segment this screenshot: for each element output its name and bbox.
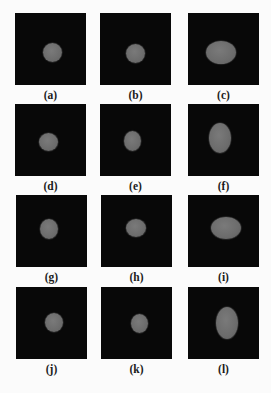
segmented-region — [209, 123, 231, 153]
segmented-region — [45, 313, 63, 332]
image-panel — [15, 104, 86, 176]
segmented-region — [131, 314, 148, 333]
panel-caption: (d) — [15, 179, 86, 193]
panel-caption: (c) — [188, 88, 259, 102]
segmented-region — [206, 41, 236, 64]
panel-caption: (i) — [188, 270, 259, 284]
image-panel — [188, 13, 259, 85]
panel-caption: (f) — [188, 179, 259, 193]
panel-caption: (j) — [16, 362, 87, 376]
image-panel — [188, 104, 259, 176]
figure-grid: (a)(b)(c)(d)(e)(f)(g)(h)(i)(j)(k)(l) — [0, 0, 271, 393]
panel-caption: (g) — [16, 270, 87, 284]
segmented-region — [216, 307, 238, 339]
segmented-region — [126, 44, 145, 63]
panel-caption: (e) — [100, 179, 171, 193]
image-panel — [188, 287, 259, 359]
panel-caption: (l) — [188, 362, 259, 376]
image-panel — [16, 195, 87, 267]
segmented-region — [126, 219, 146, 237]
image-panel — [100, 104, 171, 176]
segmented-region — [211, 217, 241, 239]
segmented-region — [39, 133, 58, 151]
image-panel — [100, 13, 171, 85]
image-panel — [15, 13, 86, 85]
segmented-region — [40, 219, 58, 239]
panel-caption: (h) — [101, 270, 172, 284]
panel-caption: (k) — [101, 362, 172, 376]
image-panel — [101, 287, 172, 359]
panel-caption: (b) — [100, 88, 171, 102]
image-panel — [16, 287, 87, 359]
segmented-region — [124, 131, 141, 151]
segmented-region — [43, 43, 62, 62]
image-panel — [101, 195, 172, 267]
panel-caption: (a) — [15, 88, 86, 102]
image-panel — [188, 195, 259, 267]
